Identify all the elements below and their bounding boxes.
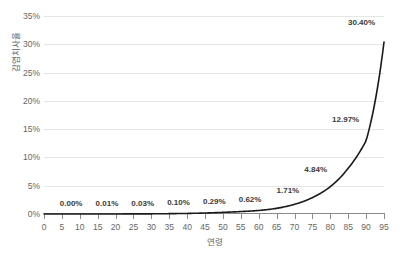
gridline: [44, 157, 384, 158]
data-label: 0.01%: [96, 199, 119, 209]
y-tick-label: 15%: [12, 124, 40, 134]
y-tick-label: 5%: [12, 181, 40, 191]
gridline: [44, 16, 384, 17]
x-tick-mark: [295, 214, 296, 219]
x-tick-mark: [98, 214, 99, 219]
x-tick-mark: [384, 214, 385, 219]
x-tick-mark: [116, 214, 117, 219]
x-tick-mark: [187, 214, 188, 219]
gridline: [44, 101, 384, 102]
y-tick-label: 20%: [12, 96, 40, 106]
x-tick-mark: [330, 214, 331, 219]
x-tick-mark: [259, 214, 260, 219]
gridline: [44, 73, 384, 74]
x-tick-mark: [44, 214, 45, 219]
x-tick-mark: [312, 214, 313, 219]
x-tick-mark: [277, 214, 278, 219]
x-tick-mark: [223, 214, 224, 219]
y-tick-label: 25%: [12, 68, 40, 78]
gridline: [44, 186, 384, 187]
x-tick-mark: [205, 214, 206, 219]
data-label: 30.40%: [348, 18, 375, 28]
x-tick-mark: [62, 214, 63, 219]
x-tick-mark: [348, 214, 349, 219]
data-label: 1.71%: [277, 186, 300, 196]
chart-container: 감염치사율 0%5%10%15%20%25%30%35% 05101520253…: [0, 0, 420, 265]
gridline: [44, 44, 384, 45]
data-label: 0.03%: [131, 199, 154, 209]
x-axis-title: 연령: [44, 236, 385, 248]
x-tick-mark: [366, 214, 367, 219]
data-label: 0.62%: [239, 195, 262, 205]
x-tick-mark: [133, 214, 134, 219]
data-label: 0.29%: [203, 197, 226, 207]
data-label: 0.00%: [60, 199, 83, 209]
gridline: [44, 129, 384, 130]
data-label: 4.84%: [304, 165, 327, 175]
data-label: 12.97%: [332, 115, 359, 125]
y-tick-label: 0%: [12, 209, 40, 219]
y-tick-label: 30%: [12, 39, 40, 49]
x-tick-mark: [241, 214, 242, 219]
gridline: [44, 214, 384, 215]
y-tick-label: 10%: [12, 152, 40, 162]
x-axis-line: [44, 213, 385, 214]
data-label: 0.10%: [167, 198, 190, 208]
x-tick-mark: [169, 214, 170, 219]
y-tick-label: 35%: [12, 11, 40, 21]
x-tick-label: 95: [374, 222, 394, 233]
x-tick-mark: [80, 214, 81, 219]
x-tick-mark: [151, 214, 152, 219]
